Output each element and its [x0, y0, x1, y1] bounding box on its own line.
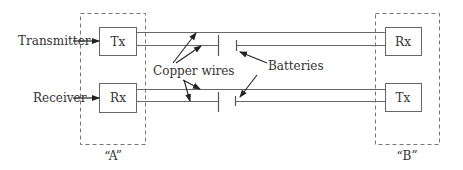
copper-wires-label: Copper wires: [153, 64, 235, 78]
station-a-label: “A”: [104, 149, 122, 163]
communication-loop-diagram: Transmitter Receiver Tx Rx Rx Tx Copper …: [0, 0, 463, 170]
lower-loop-wires: [137, 90, 386, 102]
station-b-label: “B”: [396, 149, 417, 163]
diagram-svg: Transmitter Receiver Tx Rx Rx Tx Copper …: [0, 0, 463, 170]
transmitter-label: Transmitter: [18, 34, 91, 48]
upper-battery: [219, 35, 237, 56]
batteries-arrows: [240, 52, 267, 97]
batteries-label: Batteries: [268, 59, 324, 73]
lower-battery: [219, 92, 236, 112]
station-a-rx-label: Rx: [110, 91, 126, 105]
station-b-rx-label: Rx: [395, 35, 411, 49]
station-b-tx-label: Tx: [396, 91, 411, 105]
upper-loop-wires: [137, 33, 386, 46]
station-a-tx-label: Tx: [111, 35, 126, 49]
receiver-label: Receiver: [33, 91, 87, 105]
